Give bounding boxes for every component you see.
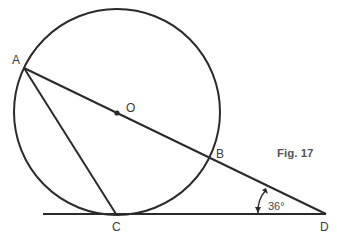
arrowhead-icon xyxy=(255,207,261,213)
label-b: B xyxy=(216,147,224,161)
centre-point-o xyxy=(114,110,119,115)
label-a: A xyxy=(12,53,20,67)
figure-caption: Fig. 17 xyxy=(277,147,313,159)
geometry-diagram: A O B C D 36° Fig. 17 xyxy=(0,0,338,242)
label-d: D xyxy=(320,220,329,234)
angle-label: 36° xyxy=(268,200,285,212)
label-o: O xyxy=(126,101,135,115)
label-c: C xyxy=(112,220,121,234)
